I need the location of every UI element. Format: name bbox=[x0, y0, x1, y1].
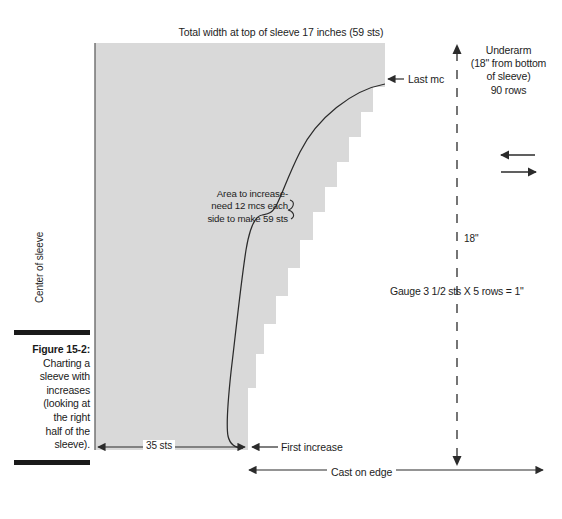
underarm-line-1: Underarm bbox=[455, 44, 562, 57]
cast-on-half-width-label: 35 sts bbox=[143, 440, 175, 451]
area-note-line-2: need 12 mcs each bbox=[184, 200, 288, 212]
figure-root: Total width at top of sleeve 17 inches (… bbox=[0, 0, 562, 519]
underarm-note: Underarm (18" from bottom of sleeve) 90 … bbox=[455, 44, 562, 97]
caption-line-4: (looking at bbox=[14, 397, 90, 411]
caption-line-1: Charting a bbox=[14, 357, 90, 371]
caption-line-5: the right bbox=[14, 411, 90, 425]
caption-line-2: sleeve with bbox=[14, 370, 90, 384]
underarm-arrow-down-icon bbox=[453, 456, 462, 466]
cast-on-edge-label: Cast on edge bbox=[327, 466, 396, 478]
area-note-line-1: Area to increase- bbox=[184, 188, 288, 200]
caption-text: Figure 15-2: Charting a sleeve with incr… bbox=[14, 343, 90, 452]
caption-rule-bottom bbox=[14, 460, 90, 465]
gauge-label: Gauge 3 1/2 sts X 5 rows = 1" bbox=[390, 285, 524, 297]
underarm-line-2: (18" from bottom bbox=[455, 57, 562, 70]
caption-rule-top bbox=[14, 330, 90, 335]
underarm-line-3: of sleeve) bbox=[455, 70, 562, 83]
area-to-increase-note: Area to increase- need 12 mcs each side … bbox=[184, 188, 288, 225]
figure-caption: Figure 15-2: Charting a sleeve with incr… bbox=[14, 330, 90, 465]
caption-line-6: half of the bbox=[14, 425, 90, 439]
last-mc-label: Last mc bbox=[408, 73, 444, 85]
underarm-inches-label: 18" bbox=[464, 233, 478, 244]
caption-line-7: sleeve). bbox=[14, 438, 90, 452]
first-increase-label: First increase bbox=[281, 441, 343, 453]
page-title: Total width at top of sleeve 17 inches (… bbox=[0, 26, 562, 38]
figure-number: Figure 15-2: bbox=[14, 343, 90, 357]
caption-line-3: increases bbox=[14, 384, 90, 398]
area-note-line-3: side to make 59 sts bbox=[184, 213, 288, 225]
underarm-line-4: 90 rows bbox=[455, 84, 562, 97]
center-of-sleeve-label: Center of sleeve bbox=[34, 208, 45, 328]
